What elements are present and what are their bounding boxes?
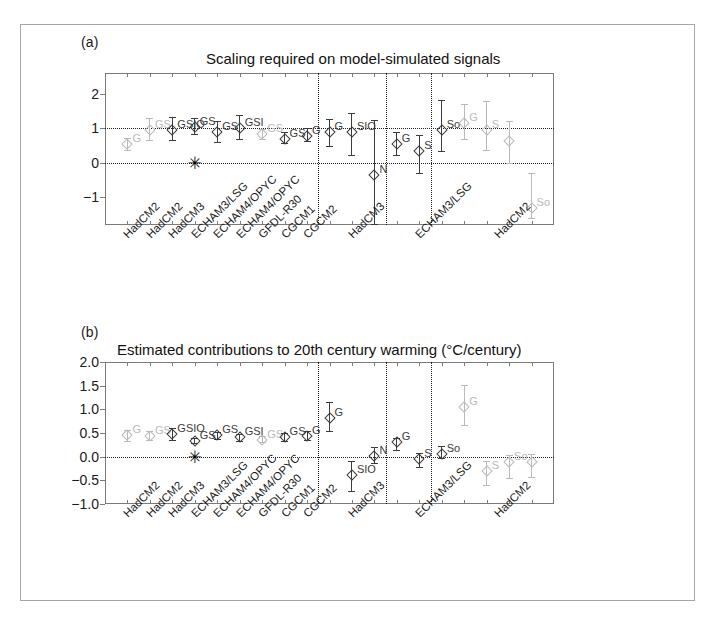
- data-point-label: So: [447, 119, 460, 130]
- x-tick-mark-top: [150, 73, 151, 77]
- data-point-label: SIO: [357, 464, 376, 475]
- error-bar-cap-top: [146, 118, 153, 119]
- x-tick-mark-top: [442, 73, 443, 77]
- x-tick-mark-top: [217, 73, 218, 77]
- error-bar-cap-top: [483, 101, 490, 102]
- y-tick-label: 1.5: [59, 378, 99, 394]
- data-point-label: GSI: [245, 117, 264, 128]
- y-tick-mark: [100, 409, 105, 410]
- diamond-marker: [369, 450, 380, 461]
- x-tick-mark-top: [532, 73, 533, 77]
- error-bar-cap-bottom: [326, 146, 333, 147]
- diamond-marker: [459, 117, 470, 128]
- x-tick-mark-top: [487, 73, 488, 77]
- diamond-marker: [503, 457, 514, 468]
- data-point-label: S: [492, 460, 499, 471]
- x-tick-mark: [330, 500, 331, 504]
- y-tick-label: 0: [59, 155, 99, 171]
- x-tick-mark: [487, 221, 488, 225]
- x-tick-mark-top: [352, 73, 353, 77]
- y-tick-label: 0.0: [59, 449, 99, 465]
- data-point-label: G: [402, 431, 411, 442]
- figure-root: (a) Scaling required on model-simulated …: [0, 0, 713, 619]
- error-bar-cap-top: [214, 121, 221, 122]
- diamond-marker: [459, 401, 470, 412]
- error-bar-cap-top: [461, 385, 468, 386]
- x-tick-mark: [442, 500, 443, 504]
- error-bar-cap-bottom: [506, 478, 513, 479]
- error-bar-cap-top: [528, 173, 535, 174]
- x-tick-mark-top: [262, 362, 263, 366]
- data-point-label: S: [492, 119, 499, 130]
- data-point-label: So: [447, 443, 460, 454]
- x-tick-mark-top: [419, 73, 420, 77]
- x-tick-mark: [397, 221, 398, 225]
- error-bar-cap-top: [483, 461, 490, 462]
- x-tick-mark: [397, 500, 398, 504]
- x-tick-mark-top: [127, 362, 128, 366]
- x-tick-mark-top: [442, 362, 443, 366]
- x-tick-mark-top: [487, 362, 488, 366]
- y-tick-label: 0.5: [59, 425, 99, 441]
- x-tick-mark-top: [262, 73, 263, 77]
- x-tick-mark-top: [195, 73, 196, 77]
- diamond-marker: [391, 138, 402, 149]
- error-bar-cap-bottom: [348, 155, 355, 156]
- error-bar-cap-top: [371, 447, 378, 448]
- x-tick-mark-top: [532, 362, 533, 366]
- error-bar-cap-bottom: [416, 173, 423, 174]
- y-tick-label: 2.0: [59, 354, 99, 370]
- diamond-marker: [414, 453, 425, 464]
- x-tick-mark-top: [217, 362, 218, 366]
- error-bar-cap-top: [506, 121, 513, 122]
- error-bar-cap-top: [326, 119, 333, 120]
- diamond-marker: [391, 437, 402, 448]
- diamond-marker: [481, 124, 492, 135]
- error-bar-cap-bottom: [483, 150, 490, 151]
- x-tick-mark-top: [330, 362, 331, 366]
- diamond-marker: [167, 124, 178, 135]
- error-bar-cap-bottom: [169, 140, 176, 141]
- error-bar-cap-bottom: [146, 140, 153, 141]
- error-bar-cap-top: [304, 128, 311, 129]
- error-bar-cap-bottom: [326, 431, 333, 432]
- error-bar-cap-bottom: [528, 218, 535, 219]
- x-tick-mark-top: [419, 362, 420, 366]
- error-bar-cap-top: [236, 115, 243, 116]
- x-tick-mark: [532, 500, 533, 504]
- x-tick-mark-top: [330, 73, 331, 77]
- x-tick-mark-top: [397, 73, 398, 77]
- observation-reference-star: ✳: [188, 154, 202, 171]
- group-separator: [431, 362, 432, 504]
- y-tick-mark: [100, 433, 105, 434]
- x-tick-mark-top: [240, 362, 241, 366]
- x-tick-mark-top: [172, 73, 173, 77]
- diamond-marker: [167, 428, 178, 439]
- reference-line: [105, 163, 554, 164]
- diamond-marker: [122, 138, 133, 149]
- y-tick-label: 2: [59, 86, 99, 102]
- observation-reference-star: ✳: [188, 448, 202, 465]
- data-point-label: GS: [200, 116, 216, 127]
- data-point-label: G: [312, 425, 321, 436]
- error-bar-cap-bottom: [236, 139, 243, 140]
- panel-b: (b) Estimated contributions to 20th cent…: [21, 315, 696, 602]
- x-tick-mark-top: [509, 73, 510, 77]
- x-tick-mark-top: [464, 362, 465, 366]
- x-tick-mark: [464, 221, 465, 225]
- diamond-marker: [503, 136, 514, 147]
- x-tick-mark-top: [397, 362, 398, 366]
- x-tick-mark-top: [285, 73, 286, 77]
- error-bar-cap-top: [416, 135, 423, 136]
- error-bar-cap-bottom: [124, 150, 131, 151]
- y-tick-label: 1: [59, 120, 99, 136]
- panel-b-data-layer: −1.0−0.50.00.51.01.52.0✳ G GS GSIO: [21, 315, 696, 602]
- panel-a-data-layer: −1012✳ G GS GSIO: [21, 25, 696, 315]
- error-bar-cap-bottom: [393, 450, 400, 451]
- data-point-label: G: [335, 407, 344, 418]
- x-tick-mark-top: [464, 73, 465, 77]
- data-point-label: So: [537, 197, 550, 208]
- error-bar-cap-bottom: [506, 163, 513, 164]
- data-point-label: So: [514, 451, 527, 462]
- x-tick-mark-top: [374, 362, 375, 366]
